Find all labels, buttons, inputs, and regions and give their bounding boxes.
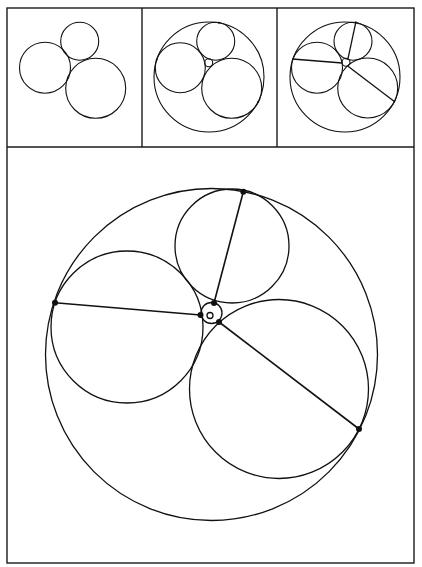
left-circle xyxy=(155,43,205,93)
tangent-point-2 xyxy=(52,300,58,306)
top-circle xyxy=(334,22,372,60)
tangent-line-3 xyxy=(348,66,395,102)
tangent-point-4 xyxy=(211,300,217,306)
figure-stage xyxy=(0,0,422,567)
tangent-point-1 xyxy=(218,22,220,24)
panel-1-three-tangent-circles xyxy=(20,22,126,118)
tangent-circles-diagram xyxy=(0,0,422,567)
bottom-right-circle xyxy=(202,58,262,118)
tangent-point-2 xyxy=(156,59,158,61)
panel-frame xyxy=(7,8,414,563)
inner-circle xyxy=(205,59,213,67)
bottom-right-circle xyxy=(338,58,398,118)
tangent-line-2 xyxy=(55,303,201,315)
tangent-point-3 xyxy=(356,426,362,432)
panel-3-with-connecting-lines xyxy=(290,21,400,132)
tangent-point-3 xyxy=(257,101,259,103)
tangent-line-2 xyxy=(292,59,342,63)
tangent-point-5 xyxy=(198,312,204,318)
left-circle xyxy=(20,42,71,93)
panel-main-enlarged-construction xyxy=(46,189,378,521)
outer-frame xyxy=(7,8,414,563)
tangent-point-1 xyxy=(240,189,246,195)
tangent-line-1 xyxy=(214,192,243,303)
left-circle xyxy=(51,251,203,403)
outer-circle xyxy=(290,22,400,132)
left-circle xyxy=(292,42,343,93)
tangent-point-6 xyxy=(216,319,222,325)
tangent-line-1 xyxy=(348,21,356,58)
outer-circle xyxy=(46,189,378,521)
panel-2-inner-and-outer-soddy-circles xyxy=(154,22,264,132)
panels xyxy=(20,21,401,520)
top-circle xyxy=(197,22,235,60)
tiny-center-circle xyxy=(207,313,213,319)
bottom-right-circle xyxy=(66,58,126,118)
tangent-line-3 xyxy=(219,322,359,429)
outer-circle xyxy=(154,22,264,132)
bottom-right-circle xyxy=(190,300,369,479)
top-circle xyxy=(175,189,289,303)
